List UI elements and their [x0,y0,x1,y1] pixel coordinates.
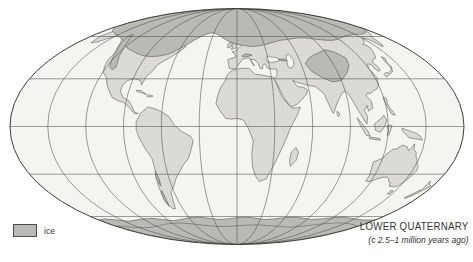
ice-legend-label: ice [44,226,55,236]
map-legend: ice [13,224,55,237]
ice-legend-swatch [13,224,37,237]
period-subtitle: (c 2.5–1 million years ago) [358,234,469,245]
map-figure: ice LOWER QUATERNARY (c 2.5–1 million ye… [0,0,473,262]
period-title: LOWER QUATERNARY [360,220,469,233]
map-caption: LOWER QUATERNARY (c 2.5–1 million years … [345,220,469,246]
